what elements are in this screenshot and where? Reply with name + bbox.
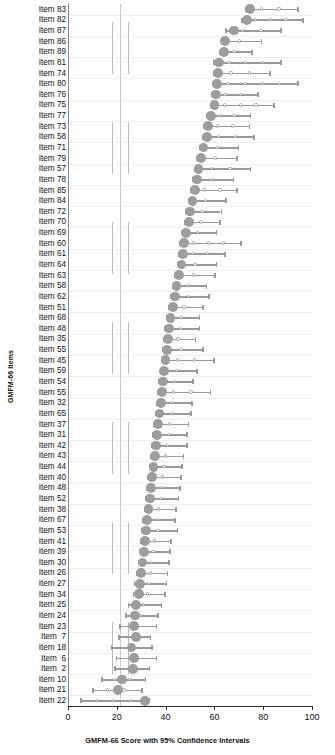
y-tick-label: Item 59 [0, 365, 66, 376]
y-tick-label: Item 25 [0, 599, 66, 610]
y-axis-tick-labels: Item 83Item 82Item 87Item 86Item 89Item … [0, 4, 66, 706]
y-tick-label: Item 70 [0, 216, 66, 227]
y-tick-label: Item 55 [0, 387, 66, 398]
x-tick-mark [312, 706, 313, 710]
y-tick-label: Item 80 [0, 78, 66, 89]
y-tick-label: Item 65 [0, 408, 66, 419]
y-tick-label: Item 2 [0, 663, 66, 674]
x-tick-mark [68, 706, 69, 710]
y-tick-label: Item 6 [0, 653, 66, 664]
x-tick-mark [117, 706, 118, 710]
y-tick-label: Item 84 [0, 195, 66, 206]
y-tick-label: Item 82 [0, 14, 66, 25]
y-tick-label: Item 53 [0, 525, 66, 536]
y-tick-label: Item 58 [0, 280, 66, 291]
y-tick-label: Item 44 [0, 461, 66, 472]
y-tick-label: Item 86 [0, 36, 66, 47]
y-tick-label: Item 42 [0, 440, 66, 451]
y-tick-label: Item 77 [0, 110, 66, 121]
y-tick-label: Item 60 [0, 238, 66, 249]
y-tick-label: Item 30 [0, 557, 66, 568]
y-tick-label: Item 74 [0, 68, 66, 79]
y-tick-label: Item 67 [0, 514, 66, 525]
x-axis-title: GMFM-66 Score with 95% Confidence Interv… [0, 736, 335, 745]
y-tick-label: Item 69 [0, 227, 66, 238]
y-tick-label: Item 21 [0, 684, 66, 695]
x-tick-mark [263, 706, 264, 710]
y-tick-label: Item 31 [0, 429, 66, 440]
x-tick-label: 0 [53, 712, 83, 722]
y-tick-label: Item 40 [0, 472, 66, 483]
y-tick-label: Item 71 [0, 142, 66, 153]
y-tick-label: Item 61 [0, 248, 66, 259]
y-tick-label: Item 78 [0, 174, 66, 185]
y-tick-label: Item 83 [0, 4, 66, 15]
y-tick-label: Item 41 [0, 536, 66, 547]
y-tick-label: Item 37 [0, 419, 66, 430]
y-tick-label: Item 45 [0, 355, 66, 366]
y-tick-label: Item 18 [0, 642, 66, 653]
y-tick-label: Item 87 [0, 25, 66, 36]
y-tick-label: Item 76 [0, 89, 66, 100]
x-tick-mark [166, 706, 167, 710]
y-tick-label: Item 22 [0, 695, 66, 706]
y-tick-label: Item 79 [0, 153, 66, 164]
y-tick-label: Item 68 [0, 312, 66, 323]
plot-area [68, 4, 312, 706]
y-tick-label: Item 57 [0, 163, 66, 174]
y-tick-label: Item 34 [0, 589, 66, 600]
x-tick-label: 40 [151, 712, 181, 722]
y-tick-label: Item 72 [0, 206, 66, 217]
y-tick-label: Item 32 [0, 397, 66, 408]
plot-border [68, 4, 312, 706]
y-tick-label: Item 63 [0, 270, 66, 281]
x-tick-mark [214, 706, 215, 710]
y-tick-label: Item 35 [0, 333, 66, 344]
y-tick-label: Item 89 [0, 46, 66, 57]
y-tick-label: Item 55 [0, 344, 66, 355]
y-tick-label: Item 7 [0, 631, 66, 642]
y-tick-label: Item 58 [0, 131, 66, 142]
y-tick-label: Item 52 [0, 493, 66, 504]
y-tick-label: Item 27 [0, 578, 66, 589]
y-tick-label: Item 23 [0, 621, 66, 632]
y-tick-label: Item 39 [0, 546, 66, 557]
x-tick-label: 20 [102, 712, 132, 722]
x-tick-label: 60 [199, 712, 229, 722]
y-tick-label: Item 54 [0, 376, 66, 387]
y-tick-label: Item 24 [0, 610, 66, 621]
y-tick-label: Item 43 [0, 450, 66, 461]
y-tick-label: Item 85 [0, 185, 66, 196]
x-axis-line [68, 706, 313, 707]
y-tick-label: Item 51 [0, 302, 66, 313]
y-tick-label: Item 62 [0, 291, 66, 302]
y-tick-label: Item 64 [0, 259, 66, 270]
y-tick-label: Item 38 [0, 504, 66, 515]
y-tick-label: Item 10 [0, 674, 66, 685]
y-tick-label: Item 73 [0, 121, 66, 132]
chart-root: GMFM-66 Items Item 83Item 82Item 87Item … [0, 0, 335, 755]
y-tick-label: Item 48 [0, 323, 66, 334]
y-tick-label: Item 81 [0, 57, 66, 68]
x-tick-label: 80 [248, 712, 278, 722]
x-tick-label: 100 [297, 712, 327, 722]
y-tick-label: Item 26 [0, 567, 66, 578]
y-tick-label: Item 48 [0, 482, 66, 493]
y-tick-label: Item 75 [0, 99, 66, 110]
